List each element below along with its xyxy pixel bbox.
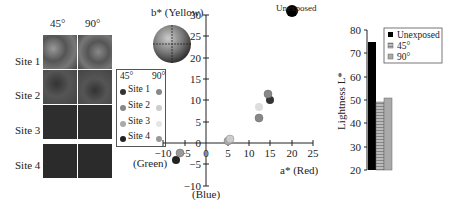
svg-text:5: 5: [225, 147, 231, 159]
svg-text:70: 70: [350, 47, 362, 59]
svg-text:−5: −5: [189, 158, 201, 170]
svg-text:0: 0: [203, 147, 209, 159]
svg-text:10: 10: [190, 94, 202, 106]
svg-text:20: 20: [190, 52, 202, 64]
bar-legend-90: 90°: [397, 52, 410, 62]
svg-text:15: 15: [265, 147, 277, 159]
svg-text:5: 5: [196, 116, 202, 128]
bar-y-axis-label: Lightness L*: [335, 72, 347, 130]
svg-text:20: 20: [350, 164, 362, 176]
svg-text:60: 60: [350, 71, 362, 83]
svg-text:80: 80: [350, 24, 362, 36]
bar-legend-unexposed: Unexposed: [397, 30, 440, 40]
svg-text:40: 40: [350, 117, 362, 129]
svg-text:0: 0: [196, 137, 202, 149]
svg-text:10: 10: [244, 147, 256, 159]
color-sphere-icon: [153, 25, 191, 63]
svg-text:15: 15: [190, 73, 202, 85]
svg-text:50: 50: [350, 94, 362, 106]
unexposed-annotation: Unexposed: [276, 3, 317, 13]
y-axis-label: b* (Yellow): [151, 6, 203, 18]
y-negative-label: (Blue): [192, 188, 220, 200]
svg-text:20: 20: [287, 147, 299, 159]
svg-text:25: 25: [190, 30, 202, 42]
x-axis-label: a* (Red): [280, 164, 318, 176]
figure: 45° 90° Site 1 Site 2 Site 3 Site 4 45° …: [0, 0, 455, 207]
x-negative-label: (Green): [133, 157, 167, 169]
svg-text:30: 30: [350, 141, 362, 153]
bar-legend-45: 45°: [397, 41, 410, 51]
svg-text:25: 25: [308, 147, 320, 159]
